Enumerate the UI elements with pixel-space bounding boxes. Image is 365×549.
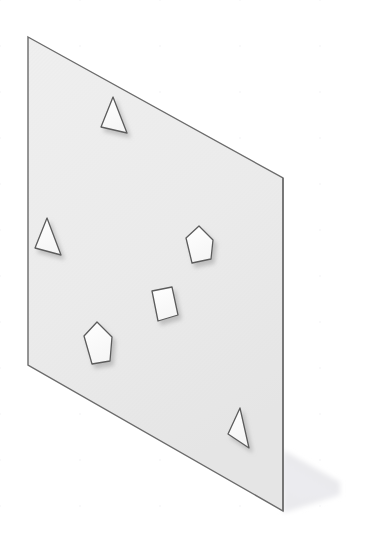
scene-canvas[interactable] xyxy=(0,0,365,549)
cad-viewport[interactable] xyxy=(0,0,365,549)
